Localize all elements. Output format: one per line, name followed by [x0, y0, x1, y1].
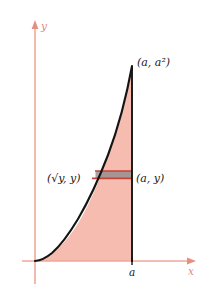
x-axis-label: x	[188, 265, 194, 277]
y-axis-label: y	[40, 20, 48, 32]
label-top-point: (a, a²)	[137, 56, 170, 69]
y-axis-arrowhead	[32, 20, 39, 29]
label-left-point: (√y, y)	[47, 172, 81, 185]
x-axis-arrowhead	[187, 258, 196, 265]
shaded-region	[35, 66, 132, 261]
x-tick-label-a: a	[129, 266, 135, 278]
parabola-region-figure: (a, a²) (√y, y) (a, y) a x y	[0, 0, 206, 292]
label-right-point: (a, y)	[136, 172, 164, 185]
figure-container: (a, a²) (√y, y) (a, y) a x y	[0, 0, 206, 292]
